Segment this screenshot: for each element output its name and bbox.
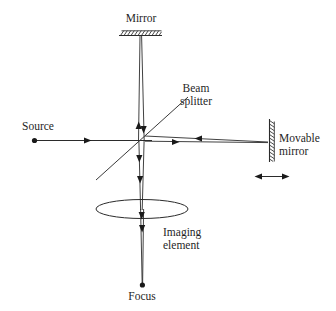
source-label: Source [22, 120, 54, 132]
movable-mirror-label-line2: mirror [279, 145, 309, 157]
arrow-down-focus-2 [139, 225, 145, 233]
movable-mirror-hatching [270, 121, 275, 162]
movable-mirror-label-line1: Movable [279, 132, 320, 144]
imaging-element-label-line2: element [163, 239, 200, 251]
focus-label: Focus [128, 290, 156, 302]
fixed-mirror [119, 31, 162, 36]
mirror-label: Mirror [126, 12, 157, 24]
beam-lens-to-focus [139, 209, 146, 285]
source-point [32, 138, 37, 143]
arrow-down-from-mirror [141, 126, 147, 134]
fixed-mirror-hatching [121, 31, 162, 36]
interferometer-canvas: Source Mirror [0, 0, 336, 311]
beam-source-to-splitter [34, 137, 152, 143]
arrow-right-to-movable-mirror [172, 139, 180, 145]
movable-mirror [270, 119, 275, 162]
beam-horizontal-arm [145, 136, 268, 145]
movable-mirror-translation-arrow [255, 173, 290, 179]
arrow-source-right [84, 137, 92, 143]
beam-splitter-label-line2: splitter [180, 95, 212, 108]
arrow-up-to-mirror [136, 122, 142, 130]
imaging-element-label-line1: Imaging [163, 226, 202, 239]
arrow-down-output-1 [136, 155, 142, 163]
arrow-left-from-movable-mirror [195, 136, 203, 142]
arrow-down-output-2 [137, 176, 143, 184]
beam-splitter [96, 97, 188, 180]
beam-vertical-arm [136, 36, 147, 141]
interferometer-diagram: Source Mirror [0, 0, 336, 311]
beam-splitter-label-line1: Beam [183, 82, 210, 94]
focus-point [140, 282, 145, 287]
